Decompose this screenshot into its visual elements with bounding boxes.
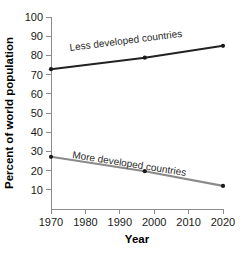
x-tick-label-1970: 1970: [39, 216, 63, 228]
series-label-less-developed: Less developed countries: [69, 28, 183, 53]
x-tick-label-1990: 1990: [108, 216, 132, 228]
x-tick-label-2010: 2010: [176, 216, 200, 228]
data-point-marker: [49, 67, 53, 71]
y-axis: 100 90 80 70 60 50 40 30 20 10 Percent o…: [3, 11, 51, 209]
y-tick-label-80: 80: [31, 49, 43, 61]
y-tick-label-90: 90: [31, 30, 43, 42]
series-more-developed-countries: More developed countries: [49, 149, 225, 188]
y-tick-label-30: 30: [31, 145, 43, 157]
line-chart-figure: 100 90 80 70 60 50 40 30 20 10 Percent o…: [0, 0, 248, 253]
data-point-marker: [49, 155, 53, 159]
series-less-developed-countries: Less developed countries: [49, 28, 225, 71]
data-point-marker: [221, 184, 225, 188]
y-tick-label-10: 10: [31, 184, 43, 196]
y-tick-label-70: 70: [31, 69, 43, 81]
y-tick-label-60: 60: [31, 88, 43, 100]
y-tick-label-40: 40: [31, 126, 43, 138]
data-point-marker: [221, 44, 225, 48]
y-tick-label-100: 100: [25, 11, 43, 23]
y-axis-title: Percent of world population: [3, 37, 15, 189]
y-tick-label-50: 50: [31, 107, 43, 119]
x-tick-label-2000: 2000: [142, 216, 166, 228]
x-tick-label-2020: 2020: [211, 216, 235, 228]
y-tick-label-20: 20: [31, 165, 43, 177]
x-axis: 1970 1980 1990 2000 2010 2020 Year: [39, 209, 235, 245]
data-point-marker: [143, 56, 147, 60]
x-axis-title: Year: [125, 233, 150, 245]
x-tick-label-1980: 1980: [73, 216, 97, 228]
chart-canvas: 100 90 80 70 60 50 40 30 20 10 Percent o…: [0, 0, 248, 253]
